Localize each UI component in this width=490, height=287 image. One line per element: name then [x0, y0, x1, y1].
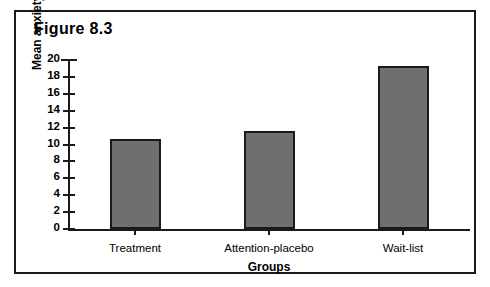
- y-axis-tick-label: 12: [30, 120, 60, 132]
- bar-treatment: [110, 139, 161, 229]
- y-axis-tick-label: 0: [30, 221, 60, 233]
- y-axis-tick-label: 18: [30, 69, 60, 81]
- y-axis-tick: [63, 211, 75, 213]
- y-axis-tick: [61, 59, 77, 61]
- y-axis-tick-label: 10: [30, 137, 60, 149]
- bar-attention-placebo: [244, 131, 295, 229]
- y-axis-tick: [63, 110, 75, 112]
- y-axis-tick-label: 8: [30, 153, 60, 165]
- x-axis-tick: [402, 229, 404, 235]
- bar-chart-plot-area: 02468101214161820 TreatmentAttention-pla…: [68, 60, 470, 229]
- y-axis-tick-label: 2: [30, 204, 60, 216]
- x-axis-title: Groups: [248, 260, 291, 274]
- y-axis-title: Mean anxiety score: [30, 0, 44, 70]
- figure-frame: Figure 8.3 02468101214161820 TreatmentAt…: [14, 10, 476, 274]
- y-axis-tick: [63, 177, 75, 179]
- y-axis-tick: [63, 144, 75, 146]
- x-axis-tick: [268, 229, 270, 235]
- x-axis-tick: [134, 229, 136, 235]
- x-axis-tick-label: Wait-list: [383, 242, 423, 254]
- y-axis-tick: [63, 194, 75, 196]
- x-axis-tick-label: Treatment: [109, 242, 161, 254]
- y-axis-tick: [63, 76, 75, 78]
- y-axis-tick: [63, 93, 75, 95]
- figure-title: Figure 8.3: [34, 20, 113, 38]
- y-axis-tick: [63, 228, 75, 230]
- bar-wait-list: [378, 66, 429, 229]
- y-axis-tick: [63, 127, 75, 129]
- y-axis-tick-label: 16: [30, 86, 60, 98]
- y-axis-tick: [63, 160, 75, 162]
- y-axis-tick-label: 14: [30, 103, 60, 115]
- x-axis-tick-label: Attention-placebo: [224, 242, 314, 254]
- y-axis-tick-label: 4: [30, 187, 60, 199]
- y-axis-tick-label: 6: [30, 170, 60, 182]
